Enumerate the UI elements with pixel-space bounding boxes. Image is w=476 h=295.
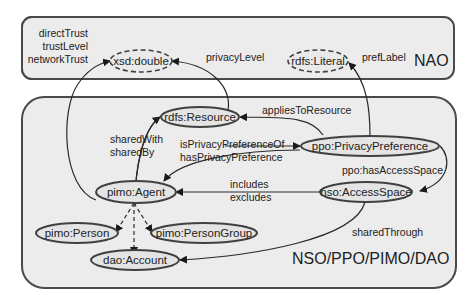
ontology-diagram: xsd:double rdfs:Literal rdfs:Resource pp… bbox=[0, 0, 476, 295]
label-shared-by: sharedBy bbox=[110, 146, 155, 158]
label-direct-trust: directTrust bbox=[39, 27, 88, 39]
node-rdfs-literal-label: rdfs:Literal bbox=[291, 55, 345, 67]
label-includes: includes bbox=[230, 178, 269, 190]
label-shared-through: sharedThrough bbox=[352, 226, 423, 238]
group-label-nao: NAO bbox=[414, 52, 449, 69]
node-nso-access-space-label: nso:AccessSpace bbox=[320, 186, 411, 198]
label-is-privacy-preference-of: isPrivacyPreferenceOf bbox=[180, 138, 285, 150]
node-pimo-person-label: pimo:Person bbox=[45, 227, 110, 239]
label-trust-level: trustLevel bbox=[42, 40, 88, 52]
node-dao-account-label: dao:Account bbox=[103, 254, 168, 266]
label-pref-label: prefLabel bbox=[362, 51, 406, 63]
group-label-nso-ppo-pimo-dao: NSO/PPO/PIMO/DAO bbox=[292, 250, 449, 267]
node-rdfs-resource-label: rdfs:Resource bbox=[164, 111, 236, 123]
node-xsd-double-label: xsd:double bbox=[113, 55, 169, 67]
node-ppo-privacy-preference-label: ppo:PrivacyPreference bbox=[312, 140, 428, 152]
label-applies-to-resource: appliesToResource bbox=[262, 104, 351, 116]
label-has-access-space: ppo:hasAccessSpace bbox=[342, 164, 443, 176]
label-network-trust: networkTrust bbox=[28, 53, 88, 65]
label-excludes: excludes bbox=[230, 191, 271, 203]
node-pimo-agent-label: pimo:Agent bbox=[107, 186, 166, 198]
label-has-privacy-preference: hasPrivacyPreference bbox=[180, 151, 283, 163]
node-pimo-person-group-label: pimo:PersonGroup bbox=[156, 227, 253, 239]
label-shared-with: sharedWith bbox=[110, 133, 163, 145]
label-privacy-level: privacyLevel bbox=[206, 51, 264, 63]
